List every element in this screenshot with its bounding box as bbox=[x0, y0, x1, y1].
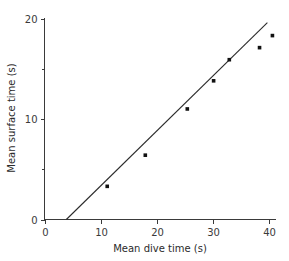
y-axis-title: Mean surface time (s) bbox=[6, 63, 17, 172]
x-axis-tick-labels: 010203040 bbox=[42, 227, 276, 238]
x-axis-group: 010203040 bbox=[42, 220, 276, 238]
scatter-chart: 01020 010203040 Mean dive time (s) Mean … bbox=[0, 0, 289, 261]
x-tick-label: 20 bbox=[151, 227, 164, 238]
data-point bbox=[212, 79, 216, 83]
data-point bbox=[105, 185, 109, 189]
chart-canvas: 01020 010203040 Mean dive time (s) Mean … bbox=[0, 0, 289, 261]
data-points bbox=[105, 34, 274, 188]
data-point bbox=[228, 58, 232, 62]
data-point bbox=[258, 46, 262, 50]
y-axis-ticks bbox=[41, 20, 45, 221]
x-tick-label: 0 bbox=[42, 227, 48, 238]
x-axis-title: Mean dive time (s) bbox=[113, 243, 207, 254]
data-point bbox=[186, 107, 190, 111]
x-tick-label: 40 bbox=[263, 227, 276, 238]
x-tick-label: 30 bbox=[207, 227, 220, 238]
data-point bbox=[144, 153, 148, 157]
y-tick-label: 20 bbox=[25, 14, 38, 25]
data-point bbox=[271, 34, 275, 38]
y-axis-tick-labels: 01020 bbox=[25, 14, 38, 226]
y-tick-label: 0 bbox=[31, 215, 37, 226]
x-axis-ticks bbox=[46, 220, 270, 224]
x-tick-label: 10 bbox=[95, 227, 108, 238]
y-tick-label: 10 bbox=[25, 114, 38, 125]
y-axis-group: 01020 bbox=[25, 14, 45, 226]
regression-line bbox=[66, 23, 267, 220]
